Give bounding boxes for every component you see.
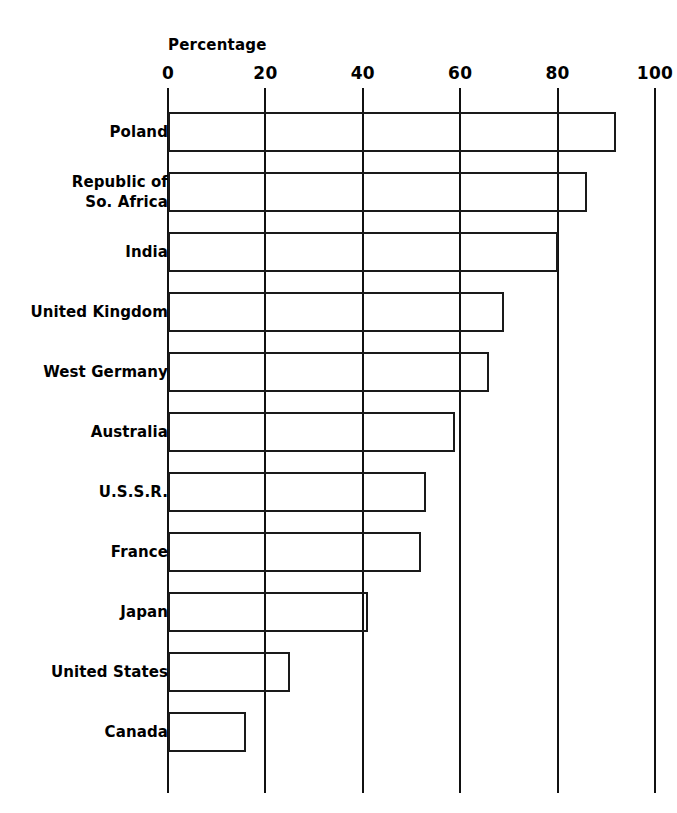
bar-row: Canada [168,712,246,752]
x-axis-tick-label: 80 [545,63,569,83]
bar-row: Australia [168,412,455,452]
bar-row: France [168,532,421,572]
x-axis-tick-label: 40 [351,63,375,83]
bar-row: Poland [168,112,616,152]
bar [168,652,290,692]
bar-category-label: Canada [0,722,180,742]
bar-row: Japan [168,592,368,632]
bar [168,172,587,212]
x-axis-tick-label: 20 [253,63,277,83]
bar-row: India [168,232,558,272]
gridline [654,88,656,793]
bar-category-label: West Germany [0,362,180,382]
x-axis-tick-label: 100 [637,63,673,83]
bar-chart: Percentage 020406080100 PolandRepublic o… [0,0,677,813]
bar-category-label: Republic of So. Africa [0,172,180,213]
bar-category-label: Australia [0,422,180,442]
bar-category-label: India [0,242,180,262]
bar [168,592,368,632]
bar [168,532,421,572]
bar-row: United Kingdom [168,292,504,332]
bar [168,232,558,272]
bar-row: West Germany [168,352,489,392]
axis-title-percentage: Percentage [168,36,267,54]
bar [168,472,426,512]
bar-category-label: United Kingdom [0,302,180,322]
bar-category-label: United States [0,662,180,682]
bar [168,352,489,392]
bar-category-label: U.S.S.R. [0,482,180,502]
bar-row: United States [168,652,290,692]
bar [168,412,455,452]
bar-category-label: Poland [0,122,180,142]
bar [168,292,504,332]
x-axis-tick-label: 0 [162,63,174,83]
bar-row: Republic of So. Africa [168,172,587,212]
bar [168,112,616,152]
bar-category-label: France [0,542,180,562]
bar-category-label: Japan [0,602,180,622]
x-axis-tick-label: 60 [448,63,472,83]
bar-row: U.S.S.R. [168,472,426,512]
